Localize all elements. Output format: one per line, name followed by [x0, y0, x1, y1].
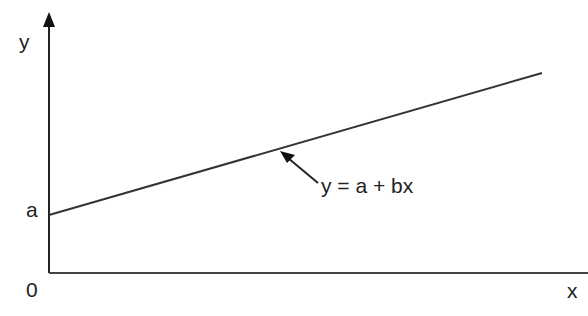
linear-equation-diagram: y a 0 x y = a + bx [0, 0, 588, 316]
annotation-arrow [288, 158, 318, 183]
equation-label: y = a + bx [321, 174, 414, 197]
y-axis-arrow-icon [43, 12, 55, 27]
y-axis-label: y [19, 30, 30, 53]
origin-label: 0 [26, 278, 38, 301]
intercept-label: a [26, 198, 38, 221]
regression-line [49, 73, 542, 215]
x-axis-label: x [567, 279, 578, 302]
